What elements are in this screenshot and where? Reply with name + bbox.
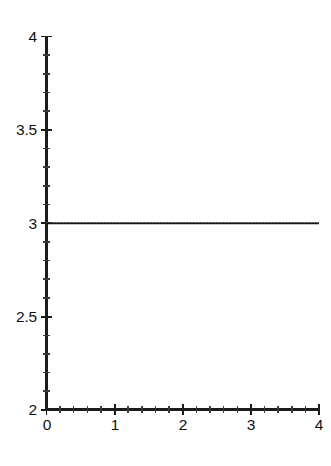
y-tick-label-3-5: 3.5	[16, 122, 37, 138]
y-tick-label-3: 3	[29, 216, 37, 232]
x-tick-label-3: 3	[245, 417, 257, 433]
y-tick-label-2: 2	[29, 402, 37, 418]
y-tick-label-4: 4	[29, 29, 37, 45]
x-tick-label-1: 1	[109, 417, 121, 433]
plot-canvas	[0, 0, 331, 466]
plot-background	[0, 0, 331, 466]
plot-figure: 4 3.5 3 2.5 2 0 1 2 3 4	[0, 0, 331, 466]
y-tick-label-2-5: 2.5	[16, 309, 37, 325]
data-series-y-equals-3	[47, 222, 320, 223]
x-tick-label-0: 0	[41, 417, 53, 433]
x-tick-label-4: 4	[313, 417, 325, 433]
x-tick-label-2: 2	[177, 417, 189, 433]
